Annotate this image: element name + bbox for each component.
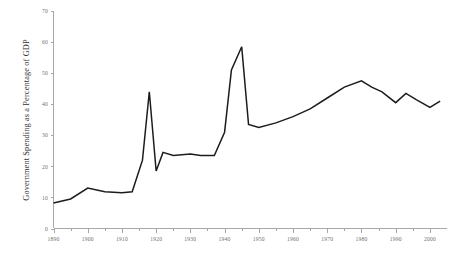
x-tick-label: 1980 (355, 236, 367, 242)
y-tick-label: 10 (42, 195, 48, 201)
y-axis-title: Government Spending as a Percentage of G… (22, 39, 31, 201)
y-axis-ticks: 010203040506070 (42, 8, 54, 232)
y-tick-label: 0 (45, 226, 48, 232)
x-tick-label: 1990 (390, 236, 402, 242)
plot-area (54, 47, 441, 203)
y-tick-label: 30 (42, 132, 48, 138)
y-tick-label: 20 (42, 164, 48, 170)
x-tick-label: 1910 (116, 236, 128, 242)
chart-container: 010203040506070 189019001910192019301940… (0, 0, 458, 262)
line-chart: 010203040506070 189019001910192019301940… (0, 0, 458, 262)
x-tick-label: 1950 (253, 236, 265, 242)
x-tick-label: 1970 (321, 236, 333, 242)
x-tick-label: 1930 (184, 236, 196, 242)
x-tick-label: 1900 (82, 236, 94, 242)
y-tick-label: 40 (42, 101, 48, 107)
x-tick-label: 1890 (48, 236, 60, 242)
x-axis: 1890190019101920193019401950196019701980… (48, 229, 448, 242)
y-tick-label: 60 (42, 39, 48, 45)
y-tick-label: 70 (42, 8, 48, 14)
y-tick-label: 50 (42, 70, 48, 76)
x-tick-label: 2000 (424, 236, 436, 242)
x-tick-label: 1960 (287, 236, 299, 242)
x-tick-label: 1920 (150, 236, 162, 242)
series-line-government-spending (54, 47, 441, 203)
y-axis: 010203040506070 (42, 8, 54, 232)
x-tick-label: 1940 (219, 236, 231, 242)
x-axis-ticks: 1890190019101920193019401950196019701980… (48, 229, 436, 242)
